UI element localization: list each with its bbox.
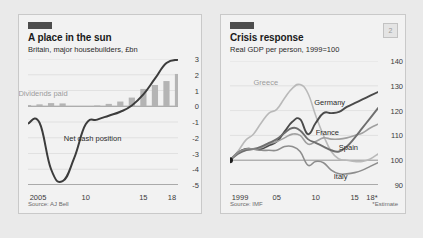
bar-11 xyxy=(152,85,158,106)
bar-7 xyxy=(106,104,112,106)
y-axis-tick: -5 xyxy=(192,181,199,190)
chart-panel-place-in-the-sun: A place in the sun Britain, major houseb… xyxy=(18,14,202,214)
y-axis-tick: 3 xyxy=(195,55,199,64)
series-label-spain: Spain xyxy=(339,142,358,151)
chart-panel-crisis-response: 2 Crisis response Real GDP per person, 1… xyxy=(220,14,406,214)
panel-number-badge: 2 xyxy=(383,23,398,38)
economist-marker-icon xyxy=(28,22,52,29)
chart-subtitle: Britain, major housebuilders, £bn xyxy=(28,45,138,54)
x-axis-tick: 05 xyxy=(273,193,281,202)
bar-12 xyxy=(163,81,169,106)
series-line-net-cash-position xyxy=(28,60,178,182)
bar-3 xyxy=(60,103,66,106)
source-note: Source: IMF xyxy=(230,201,263,207)
x-axis-tick: 10 xyxy=(312,193,320,202)
y-axis-tick: 100 xyxy=(390,156,403,165)
bar-1 xyxy=(36,104,42,106)
y-axis-tick: 2 xyxy=(195,70,199,79)
footnote-estimate: *Estimate xyxy=(372,201,398,207)
chart-svg-crisis-response xyxy=(230,61,378,185)
source-note: Source: AJ Bell xyxy=(28,201,69,207)
bar-13 xyxy=(175,74,178,106)
y-axis-tick: 130 xyxy=(390,81,403,90)
y-axis-labels-right: 14013012011010090 xyxy=(381,61,405,185)
y-axis-tick: 120 xyxy=(390,106,403,115)
x-axis-tick: 18 xyxy=(168,193,176,202)
y-axis-tick: -2 xyxy=(192,133,199,142)
bar-2 xyxy=(48,103,54,106)
x-axis-tick: 15 xyxy=(139,193,147,202)
chart-svg-place-in-the-sun xyxy=(28,59,178,185)
series-line-spain xyxy=(230,108,378,160)
chart-plot-area-right: GreeceGermanyFranceSpainItaly xyxy=(230,61,378,185)
figure-root: A place in the sun Britain, major houseb… xyxy=(0,0,423,238)
series-label-france: France xyxy=(316,127,339,136)
y-axis-tick: 0 xyxy=(195,102,199,111)
bar-6 xyxy=(94,105,100,106)
chart-plot-area-left: Dividends paidNet cash position xyxy=(28,59,178,185)
y-axis-labels-left: 3210-1-2-3-4-5 xyxy=(181,59,201,185)
y-axis-tick: -1 xyxy=(192,118,199,127)
series-label-italy: Italy xyxy=(334,172,348,181)
x-axis-tick: 15 xyxy=(350,193,358,202)
y-axis-tick: -3 xyxy=(192,149,199,158)
page-title: Crisis response xyxy=(230,32,304,43)
economist-marker-icon xyxy=(230,22,254,29)
bar-0 xyxy=(28,105,31,106)
series-label-net-cash-position: Net cash position xyxy=(64,133,122,142)
series-label-germany: Germany xyxy=(314,97,345,106)
series-label-greece: Greece xyxy=(254,78,279,87)
y-axis-tick: 90 xyxy=(395,181,403,190)
bar-8 xyxy=(117,102,123,107)
series-label-dividends-paid: Dividends paid xyxy=(18,88,67,97)
chart-subtitle: Real GDP per person, 1999=100 xyxy=(230,45,339,54)
y-axis-tick: 140 xyxy=(390,57,403,66)
page-title: A place in the sun xyxy=(28,32,111,43)
y-axis-tick: -4 xyxy=(192,165,199,174)
y-axis-tick: 110 xyxy=(391,131,403,140)
y-axis-tick: 1 xyxy=(195,86,199,95)
x-axis-tick: 10 xyxy=(82,193,90,202)
